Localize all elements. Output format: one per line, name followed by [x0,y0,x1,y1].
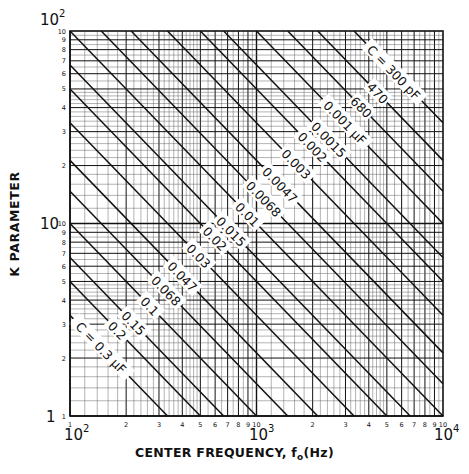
svg-text:5: 5 [198,421,202,429]
svg-text:7: 7 [62,57,66,65]
svg-text:4: 4 [367,421,371,429]
svg-text:2: 2 [62,162,66,170]
x-decade-label-1000: 103 [249,428,274,443]
svg-text:6: 6 [400,421,404,429]
svg-text:8: 8 [423,421,427,429]
svg-text:2: 2 [62,355,66,363]
svg-text:3: 3 [343,421,347,429]
svg-text:7: 7 [226,421,230,429]
svg-text:8: 8 [62,239,66,247]
chart-canvas: C = 300 pF4706800.001 µF0.00150.0020.003… [0,0,469,474]
svg-text:5: 5 [62,278,66,286]
svg-text:3: 3 [62,321,66,329]
svg-text:9: 9 [62,36,66,44]
svg-text:2: 2 [311,421,315,429]
y-axis-title: K PARAMETER [7,171,22,276]
svg-text:5: 5 [385,421,389,429]
svg-text:4: 4 [62,297,66,305]
svg-text:7: 7 [62,250,66,258]
y-decade-label-10: 10 [40,217,59,232]
x-decade-label-10000: 104 [434,428,459,443]
x-decade-label-100: 102 [64,428,89,443]
svg-text:2: 2 [124,421,128,429]
svg-text:8: 8 [62,46,66,54]
svg-text:6: 6 [213,421,217,429]
svg-text:5: 5 [62,85,66,93]
svg-text:1: 1 [62,413,66,421]
svg-text:4: 4 [180,421,184,429]
svg-text:7: 7 [412,421,416,429]
svg-text:8: 8 [236,421,240,429]
svg-text:6: 6 [62,70,66,78]
x-axis-title: CENTER FREQUENCY, fo(Hz) [0,445,469,460]
svg-text:3: 3 [62,128,66,136]
svg-text:4: 4 [62,104,66,112]
svg-text:9: 9 [62,229,66,237]
svg-text:3: 3 [157,421,161,429]
y-decade-label-1: 1 [46,410,56,425]
y-decade-label-100: 102 [40,13,65,28]
cap-line [70,123,354,416]
svg-text:6: 6 [62,263,66,271]
